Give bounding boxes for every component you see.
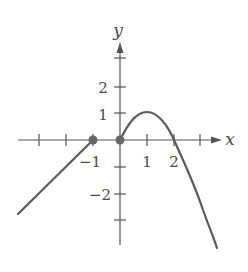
left-line-segment [18,140,93,214]
x-axis-arrow-icon [211,137,222,144]
x-tick-label-1: 1 [142,153,152,171]
y-tick-label-2: 2 [98,79,108,97]
point-dot-origin [116,136,125,145]
y-tick-label-1: 1 [98,106,108,124]
x-tick-label-neg1: −1 [79,153,101,171]
x-tick-label-2: 2 [169,153,179,171]
function-graph: y x −1 1 2 2 1 −2 [0,0,248,272]
right-curve [120,112,217,248]
y-tick-label-neg2: −2 [89,186,111,204]
x-axis-label: x [225,129,235,149]
y-axis-arrow-icon [117,42,124,53]
y-axis-label: y [112,20,123,40]
point-dot-neg1-0 [89,136,98,145]
